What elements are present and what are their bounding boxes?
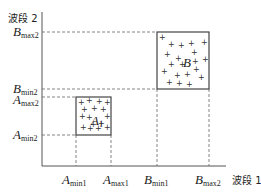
svg-text:+: +	[164, 50, 171, 59]
ytick-bmax2: Bmax2	[13, 24, 39, 40]
svg-text:+: +	[79, 112, 86, 121]
xtick-bmax2: Bmax2	[195, 172, 221, 188]
xtick-amin1: Amin1	[61, 172, 86, 188]
svg-text:+: +	[91, 104, 98, 113]
svg-text:+: +	[201, 38, 208, 47]
ytick-amin2: Amin2	[12, 127, 37, 143]
svg-text:+: +	[176, 79, 183, 88]
xtick-bmin1: Bmin1	[144, 172, 168, 188]
svg-text:+: +	[159, 33, 166, 42]
svg-text:+: +	[168, 40, 175, 49]
svg-text:+: +	[178, 41, 185, 50]
x-axis-title: 波段 1	[232, 174, 261, 186]
svg-text:+: +	[186, 80, 193, 89]
svg-text:+: +	[166, 78, 173, 87]
parallelepiped-classification-diagram: ++++ +++ +++ ++ ++++ A1 +++++ +++ ++++ +…	[0, 0, 261, 193]
svg-text:+: +	[198, 73, 205, 82]
class-a-label: A1	[90, 113, 103, 129]
svg-text:+: +	[161, 67, 168, 76]
svg-text:+: +	[202, 55, 209, 64]
svg-text:+: +	[80, 123, 87, 132]
svg-text:+: +	[191, 48, 198, 57]
svg-text:+: +	[188, 39, 195, 48]
xtick-amax1: Amax1	[102, 172, 129, 188]
svg-text:+: +	[168, 60, 175, 69]
svg-text:+: +	[184, 70, 191, 79]
y-axis-title: 波段 2	[8, 12, 38, 24]
svg-text:+: +	[104, 112, 111, 121]
svg-text:+: +	[104, 123, 111, 132]
class-b-label: B	[183, 55, 191, 70]
